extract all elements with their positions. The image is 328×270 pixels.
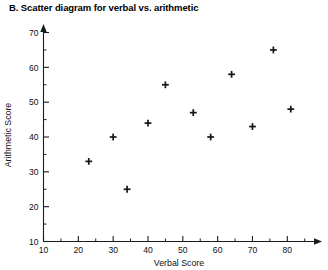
y-tick-label: 60 (29, 63, 39, 73)
x-tick-label: 50 (178, 245, 188, 255)
plot-area: 1020304050607080 10203040506070 Verbal S… (0, 0, 328, 270)
x-tick-label: 80 (283, 245, 293, 255)
x-tick-label: 10 (39, 245, 49, 255)
y-tick-label: 10 (29, 237, 39, 247)
y-axis-arrowhead (40, 24, 46, 32)
x-tick-label: 70 (248, 245, 258, 255)
x-tick-label: 40 (143, 245, 153, 255)
x-tick-label: 30 (108, 245, 118, 255)
x-axis-tick-labels: 1020304050607080 (39, 245, 293, 255)
data-point (110, 134, 117, 141)
y-axis-title: Arithmetic Score (3, 103, 13, 168)
data-point (287, 106, 294, 113)
data-point (249, 123, 256, 130)
data-point (124, 186, 131, 193)
data-point (145, 120, 152, 127)
data-point (207, 134, 214, 141)
data-point (228, 71, 235, 78)
data-point (270, 47, 277, 54)
y-axis-ticks (44, 33, 50, 242)
data-point-series (85, 47, 294, 193)
x-tick-label: 20 (74, 245, 84, 255)
x-axis-arrowhead (314, 238, 322, 244)
y-tick-label: 20 (29, 202, 39, 212)
x-axis-title: Verbal Score (154, 258, 204, 268)
y-axis-tick-labels: 10203040506070 (29, 28, 39, 247)
y-tick-label: 50 (29, 97, 39, 107)
x-axis-ticks (44, 236, 305, 242)
data-point (190, 109, 197, 116)
data-point (85, 158, 92, 165)
x-tick-label: 60 (213, 245, 223, 255)
y-tick-label: 30 (29, 167, 39, 177)
scatter-figure: B. Scatter diagram for verbal vs. arithm… (0, 0, 328, 270)
y-tick-label: 70 (29, 28, 39, 38)
data-point (162, 81, 169, 88)
y-tick-label: 40 (29, 132, 39, 142)
axes (40, 24, 322, 245)
